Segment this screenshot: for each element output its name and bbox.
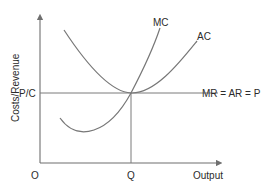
mc-label: MC [153,17,169,28]
y-axis-label: Costs/Revenue [10,53,21,122]
quantity-label: Q [127,170,135,181]
x-axis-label: Output [193,170,223,181]
ac-curve [64,30,197,93]
mc-curve [60,28,160,132]
cost-revenue-diagram: MC AC MR = AR = P P/C O Q Output Costs/R… [0,0,270,186]
origin-label: O [31,170,39,181]
ac-label: AC [197,31,211,42]
price-label: P/C [19,88,36,99]
mr-ar-p-label: MR = AR = P [202,88,261,99]
